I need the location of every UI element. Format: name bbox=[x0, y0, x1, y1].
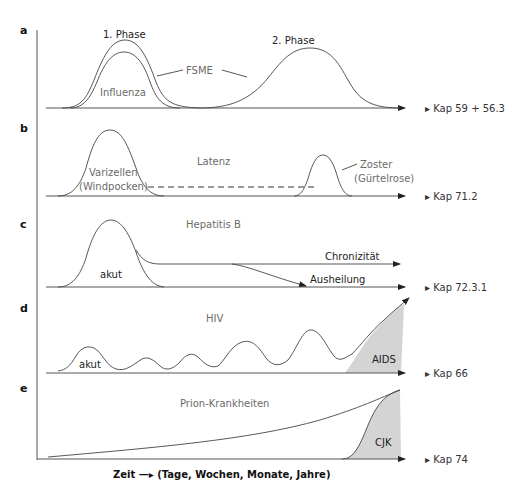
zoster-leader bbox=[342, 164, 357, 170]
label-phase-1: 1. Phase bbox=[103, 29, 146, 40]
panel-letter-b: b bbox=[20, 122, 28, 135]
panel-letter-a: a bbox=[20, 24, 27, 37]
label-prion: Prion-Krankheiten bbox=[180, 398, 269, 409]
label-akut-d: akut bbox=[79, 359, 101, 370]
panel-a: a 1. Phase 2. Phase FSME Influenza ▸ Kap… bbox=[20, 24, 505, 114]
cjk-shaded-area bbox=[342, 390, 401, 459]
label-aids: AIDS bbox=[372, 354, 396, 365]
kap-ref-c: ▸ Kap 72.3.1 bbox=[425, 282, 487, 293]
zoster-curve bbox=[294, 155, 352, 196]
label-latenz: Latenz bbox=[197, 156, 230, 167]
fsme-leader-right bbox=[222, 70, 247, 77]
kap-ref-e: ▸ Kap 74 bbox=[425, 454, 468, 465]
label-hepatitis-b: Hepatitis B bbox=[186, 219, 241, 230]
influenza-curve bbox=[70, 52, 180, 108]
kap-ref-a: ▸ Kap 59 + 56.3 bbox=[425, 103, 505, 114]
label-windpocken: (Windpocken) bbox=[79, 181, 148, 192]
label-cjk: CJK bbox=[375, 437, 392, 448]
panel-b: b Varizellen (Windpocken) Latenz Zoster … bbox=[20, 122, 478, 202]
panel-e: e Prion-Krankheiten CJK ▸ Kap 74 bbox=[20, 382, 468, 465]
panel-letter-c: c bbox=[20, 218, 27, 231]
disease-course-diagram: a 1. Phase 2. Phase FSME Influenza ▸ Kap… bbox=[0, 0, 510, 491]
healing-line bbox=[232, 264, 306, 286]
label-varizellen: Varizellen bbox=[89, 167, 138, 178]
panel-letter-d: d bbox=[20, 302, 28, 315]
panel-c: c Hepatitis B akut Chronizität Ausheilun… bbox=[20, 218, 487, 293]
label-hiv: HIV bbox=[206, 313, 223, 324]
panel-d: d HIV akut AIDS ▸ Kap 66 bbox=[20, 298, 468, 379]
x-axis-label: Zeit —▸ (Tage, Wochen, Monate, Jahre) bbox=[113, 469, 330, 480]
label-zoster: Zoster bbox=[360, 159, 393, 170]
label-influenza: Influenza bbox=[100, 87, 146, 98]
label-chronizitaet: Chronizität bbox=[325, 251, 380, 262]
label-ausheilung: Ausheilung bbox=[310, 274, 365, 285]
panel-letter-e: e bbox=[20, 382, 27, 395]
label-akut-c: akut bbox=[100, 269, 122, 280]
label-fsme: FSME bbox=[186, 65, 213, 76]
label-guertelrose: (Gürtelrose) bbox=[354, 173, 414, 184]
fsme-leader-left bbox=[157, 70, 183, 76]
kap-ref-d: ▸ Kap 66 bbox=[425, 368, 468, 379]
label-phase-2: 2. Phase bbox=[272, 35, 315, 46]
kap-ref-b: ▸ Kap 71.2 bbox=[425, 191, 478, 202]
